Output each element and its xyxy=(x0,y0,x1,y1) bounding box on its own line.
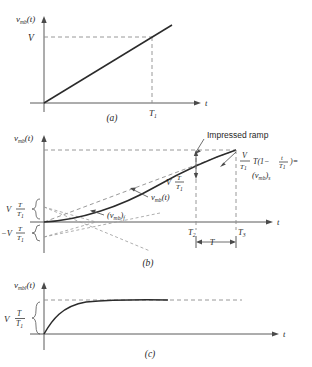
panel-b-gap-label-num: T xyxy=(177,174,182,182)
panel-a: vmb(t) t V T1 (a) xyxy=(0,0,312,128)
panel-c-brace xyxy=(32,302,40,334)
figure-container: vmb(t) t V T1 (a) xyxy=(0,0,312,367)
panel-b-caption: (b) xyxy=(142,258,153,269)
panel-b-lower-brace-num: T xyxy=(18,225,23,233)
panel-b-x-axis-arrow xyxy=(266,219,273,224)
panel-b-y-axis-label: vmb(t) xyxy=(14,133,33,144)
panel-c-x-axis-arrow xyxy=(272,331,279,336)
panel-b-curve-label: vmb(t) xyxy=(151,192,170,203)
panel-b-origin-guide-2 xyxy=(44,222,96,237)
panel-b-lower-brace xyxy=(32,225,40,241)
panel-b-upper-brace-V: V xyxy=(6,204,13,214)
panel-b-forced-component-dashed xyxy=(44,213,160,237)
panel-a-caption: (a) xyxy=(106,113,117,124)
panel-b-tick-T2: T2 xyxy=(188,227,196,238)
panel-b-x-axis-label: t xyxy=(277,217,280,227)
panel-b-gap-arrow-down xyxy=(194,173,198,179)
panel-b-lower-brace-label: −V T T1 xyxy=(1,225,25,243)
panel-b-formula-leader-arrow xyxy=(220,162,226,167)
panel-b-upper-brace xyxy=(32,199,40,219)
panel-b-tick-T3: T3 xyxy=(238,227,246,238)
panel-c-response-curve xyxy=(44,300,168,334)
panel-b-dimension-arrow-right xyxy=(230,240,236,245)
panel-b-formula-den: T1 xyxy=(240,163,247,172)
panel-b-lower-brace-V: −V xyxy=(1,228,14,238)
panel-a-x-tick-label: T1 xyxy=(149,108,157,119)
panel-b-y-axis-arrow xyxy=(41,135,46,142)
panel-c: vmbl(t) t V T T1 (c) xyxy=(0,272,312,367)
panel-b-upper-brace-num: T xyxy=(18,201,23,209)
panel-b-formula-frac-den: T1 xyxy=(279,162,286,170)
panel-b-lower-brace-den: T1 xyxy=(17,234,24,243)
panel-c-caption: (c) xyxy=(145,349,156,360)
panel-c-brace-den: T1 xyxy=(16,319,23,329)
panel-c-brace-label: V T T1 xyxy=(4,309,25,329)
panel-b-upper-brace-den: T1 xyxy=(17,210,24,219)
panel-a-y-tick-label: V xyxy=(28,33,35,43)
panel-b-forced-label: (vmb)f xyxy=(107,210,126,221)
panel-a-x-axis-arrow xyxy=(194,100,201,105)
panel-c-y-axis-label: vmbl(t) xyxy=(14,280,35,291)
panel-b-formula-rest: T(1− xyxy=(253,157,270,166)
panel-b-impressed-ramp-annotation: Impressed ramp xyxy=(207,130,269,140)
panel-c-brace-num: T xyxy=(17,309,22,318)
panel-b: vmb(t) t Impressed ramp vmb(t) (vmb)f V … xyxy=(0,125,312,273)
panel-b-formula-V: V xyxy=(242,151,248,160)
panel-b-formula: V T1 T(1− t T1 )= (vmb)s xyxy=(240,151,298,181)
panel-a-y-axis-arrow xyxy=(41,16,46,23)
panel-b-steady-component-dashed xyxy=(44,207,150,251)
panel-b-formula-close: )= xyxy=(289,157,298,166)
panel-a-y-axis-label: vmb(t) xyxy=(16,14,35,25)
panel-b-gap-label-den: T1 xyxy=(176,183,183,192)
panel-b-formula-frac-num: t xyxy=(281,154,283,161)
panel-c-brace-V: V xyxy=(4,314,11,324)
panel-b-dimension-arrow-left xyxy=(196,240,202,245)
panel-a-x-axis-label: t xyxy=(205,98,208,108)
panel-b-upper-brace-label: V T T1 xyxy=(6,201,25,219)
panel-c-y-axis-arrow xyxy=(41,282,46,289)
panel-c-x-axis-label: t xyxy=(283,329,286,339)
panel-b-formula-result: (vmb)s xyxy=(252,170,270,181)
